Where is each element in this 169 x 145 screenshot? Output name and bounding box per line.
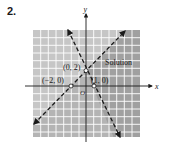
point-0-2 [84, 69, 88, 73]
origin-label: O [80, 89, 85, 97]
point-label-neg2-0: (−2, 0) [42, 76, 64, 85]
point-label-0-2: (0, 2) [63, 63, 81, 72]
point-label-1-0: (1, 0) [91, 76, 109, 85]
inequality-graph: (0, 2) (−2, 0) (1, 0) Solution O x y [0, 0, 169, 145]
point-neg2-0 [69, 84, 73, 88]
y-axis-label: y [83, 5, 88, 14]
solution-label: Solution [105, 58, 132, 67]
x-axis-label: x [154, 82, 159, 91]
